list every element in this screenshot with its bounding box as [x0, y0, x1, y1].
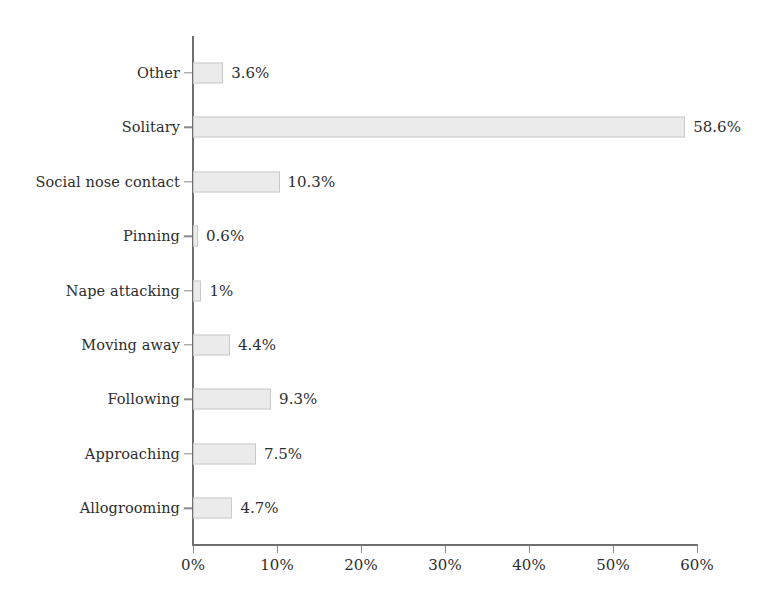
bar-chart: Other3.6%Solitary58.6%Social nose contac… [0, 0, 765, 604]
bar-row: Allogrooming4.7% [0, 488, 765, 528]
bar-row: Approaching7.5% [0, 434, 765, 474]
x-axis-tick-label: 10% [260, 556, 293, 574]
bar-value-label: 1% [209, 282, 233, 300]
category-label: Moving away [81, 337, 180, 353]
bar-row: Pinning0.6% [0, 216, 765, 256]
y-axis-tick [184, 127, 192, 128]
x-axis-tick [193, 545, 194, 553]
bar-value-label: 4.7% [240, 499, 278, 517]
x-axis-tick-label: 40% [512, 556, 545, 574]
y-axis-tick [184, 507, 192, 508]
bar-value-label: 3.6% [231, 64, 269, 82]
x-axis-tick-label: 20% [344, 556, 377, 574]
y-axis-tick [184, 72, 192, 73]
bar [193, 335, 230, 356]
x-axis-tick-label: 60% [680, 556, 713, 574]
bar [193, 63, 223, 84]
x-axis-tick [361, 545, 362, 553]
bar [193, 171, 280, 192]
x-axis-tick-label: 30% [428, 556, 461, 574]
y-axis-tick [184, 344, 192, 345]
x-axis-tick-label: 50% [596, 556, 629, 574]
bar-row: Nape attacking1% [0, 271, 765, 311]
bar-row: Following9.3% [0, 379, 765, 419]
category-label: Approaching [85, 446, 180, 462]
category-label: Social nose contact [35, 174, 180, 190]
bar-row: Moving away4.4% [0, 325, 765, 365]
x-axis-tick [697, 545, 698, 553]
category-label: Other [137, 65, 180, 81]
bar-value-label: 7.5% [264, 445, 302, 463]
bar-row: Solitary58.6% [0, 107, 765, 147]
bar-row: Other3.6% [0, 53, 765, 93]
x-axis-tick [445, 545, 446, 553]
bar-value-label: 4.4% [238, 336, 276, 354]
bar [193, 117, 685, 138]
x-axis-tick [277, 545, 278, 553]
bar [193, 443, 256, 464]
x-axis-tick-label: 0% [181, 556, 205, 574]
bar-value-label: 0.6% [206, 227, 244, 245]
bar [193, 389, 271, 410]
bar [193, 226, 198, 247]
category-label: Solitary [122, 119, 180, 135]
bar-row: Social nose contact10.3% [0, 162, 765, 202]
category-label: Allogrooming [80, 500, 180, 516]
y-axis-tick [184, 181, 192, 182]
x-axis-tick [613, 545, 614, 553]
bar-value-label: 10.3% [288, 173, 336, 191]
y-axis-tick [184, 399, 192, 400]
y-axis-tick [184, 235, 192, 236]
category-label: Pinning [123, 228, 180, 244]
bar [193, 498, 232, 519]
x-axis-tick [529, 545, 530, 553]
category-label: Following [107, 391, 180, 407]
bar-value-label: 9.3% [279, 390, 317, 408]
category-label: Nape attacking [66, 283, 180, 299]
y-axis-tick [184, 290, 192, 291]
bar-value-label: 58.6% [693, 118, 741, 136]
bar [193, 280, 201, 301]
y-axis-tick [184, 453, 192, 454]
